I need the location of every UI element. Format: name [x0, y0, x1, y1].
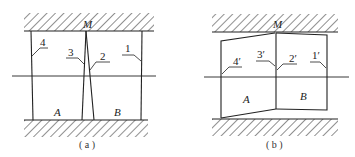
line-4 [31, 31, 33, 120]
leader-4-prime [222, 67, 242, 74]
leader-4 [32, 48, 48, 56]
label-4-prime: 4′ [233, 55, 241, 67]
region-B: B [300, 90, 307, 102]
leader-2 [90, 62, 110, 70]
region-B: B [114, 106, 121, 118]
leader-3 [66, 58, 84, 64]
label-M: M [272, 18, 283, 30]
leader-2-prime [277, 64, 297, 70]
diagram-canvas: M 4 3 2 1 A B ( a ) M 4′ 3′ 2′ 1′ A [0, 0, 355, 157]
bottom-wall-hatch [212, 119, 338, 136]
region-A: A [242, 93, 250, 105]
line-4-prime [221, 33, 275, 118]
label-2-prime: 2′ [289, 52, 297, 64]
leader-1-prime [310, 62, 326, 68]
panel-a: M 4 3 2 1 A B ( a ) [12, 13, 156, 151]
caption-a: ( a ) [79, 139, 95, 151]
line-3 [82, 31, 86, 120]
caption-b: ( b ) [266, 139, 283, 151]
leader-1 [122, 55, 141, 61]
label-2: 2 [100, 50, 106, 62]
label-4: 4 [40, 36, 46, 48]
line-2 [86, 31, 94, 120]
line-1 [141, 31, 142, 120]
panel-b: M 4′ 3′ 2′ 1′ A B ( b ) [204, 14, 349, 151]
bottom-wall-hatch [24, 120, 148, 137]
label-3-prime: 3′ [257, 48, 265, 60]
block-A-bottom [221, 109, 276, 118]
leader-3-prime [256, 61, 275, 66]
label-M: M [82, 18, 93, 30]
label-1: 1 [125, 42, 131, 54]
region-A: A [53, 106, 61, 118]
label-3: 3 [68, 46, 74, 58]
label-1-prime: 1′ [312, 49, 320, 61]
